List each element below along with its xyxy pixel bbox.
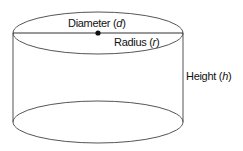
height-text: Height — [186, 70, 216, 82]
cylinder-bottom-ellipse — [13, 101, 183, 143]
diameter-text: Diameter — [68, 17, 110, 29]
diameter-label: Diameter (d) — [68, 17, 126, 29]
radius-var: r — [153, 36, 156, 48]
center-point — [95, 30, 100, 35]
radius-text: Radius — [114, 36, 146, 48]
height-var: h — [222, 70, 228, 82]
height-label: Height (h) — [186, 70, 231, 82]
radius-label: Radius (r) — [114, 36, 159, 48]
diameter-var: d — [116, 17, 122, 29]
